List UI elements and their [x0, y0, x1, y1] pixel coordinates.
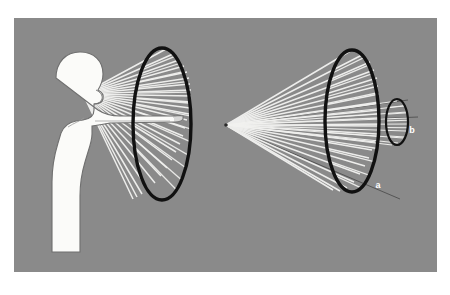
visual-cone-diagram: a b	[0, 0, 450, 295]
label-b: b	[409, 125, 415, 135]
cone-vertex-point	[224, 123, 228, 127]
figure-page: a b	[0, 0, 450, 295]
